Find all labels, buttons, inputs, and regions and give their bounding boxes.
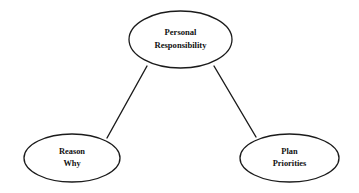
node-personal-responsibility[interactable]: Personal Responsibility [129, 11, 232, 68]
node-reason-why[interactable]: Reason Why [24, 134, 120, 182]
node-plan-priorities[interactable]: Plan Priorities [240, 134, 339, 182]
node-label-reason-why-line2: Why [63, 159, 81, 168]
diagram-canvas: Personal Responsibility Reason Why Plan … [0, 0, 359, 193]
diagram-svg: Personal Responsibility Reason Why Plan … [0, 0, 359, 193]
node-label-reason-why-line1: Reason [59, 147, 85, 156]
node-label-personal-responsibility-line1: Personal [165, 27, 198, 37]
connector-root-to-reason-why [107, 66, 147, 138]
node-label-personal-responsibility-line2: Responsibility [154, 40, 207, 50]
node-label-plan-priorities-line2: Priorities [273, 159, 307, 168]
node-ellipse-reason-why [24, 134, 120, 182]
node-ellipse-plan-priorities [240, 134, 339, 182]
node-label-plan-priorities-line1: Plan [281, 147, 298, 156]
connector-root-to-plan-priorities [214, 66, 256, 137]
